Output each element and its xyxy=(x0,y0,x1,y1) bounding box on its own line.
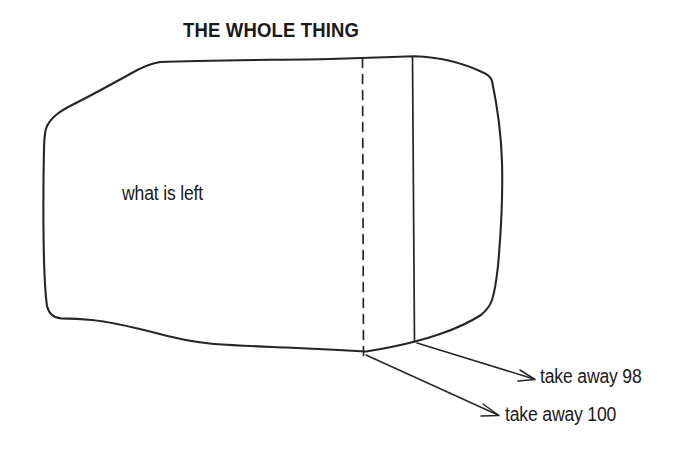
take-away-98-leader xyxy=(417,343,534,379)
solid-divider-line xyxy=(413,57,415,343)
dashed-divider-line xyxy=(363,59,364,359)
take-away-98-arrow xyxy=(417,343,535,381)
diagram-title: THE WHOLE THING xyxy=(183,18,359,42)
whole-thing-blob-outline xyxy=(43,56,502,351)
what-is-left-label: what is left xyxy=(122,182,203,205)
take-away-100-label: take away 100 xyxy=(505,403,616,426)
take-away-100-leader xyxy=(366,355,498,415)
take-away-98-label: take away 98 xyxy=(540,365,642,388)
take-away-100-arrow xyxy=(366,355,499,416)
diagram-canvas: THE WHOLE THING what is left take away 9… xyxy=(0,0,694,462)
subtraction-diagram-svg xyxy=(0,0,694,462)
take-away-100-arrowhead xyxy=(481,404,499,416)
